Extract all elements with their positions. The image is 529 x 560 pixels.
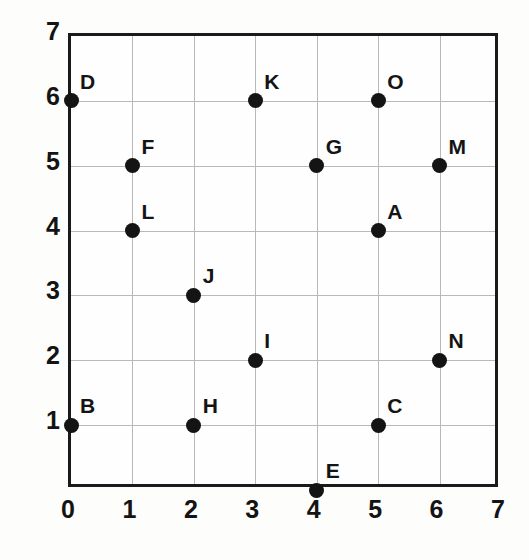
- gridline-vertical: [317, 36, 318, 484]
- x-tick-label: 2: [176, 495, 206, 524]
- data-point[interactable]: [186, 288, 201, 303]
- x-tick-label: 0: [53, 495, 83, 524]
- data-point-label: I: [264, 330, 270, 351]
- data-point[interactable]: [309, 158, 324, 173]
- x-tick-label: 1: [114, 495, 144, 524]
- data-point-label: C: [387, 395, 402, 416]
- plot-area: ABCDEFGHIJKLMNO: [68, 33, 498, 487]
- data-point[interactable]: [248, 93, 263, 108]
- x-tick-label: 7: [483, 495, 513, 524]
- data-point-label: O: [387, 71, 403, 92]
- data-point-label: D: [80, 71, 95, 92]
- y-tick-label: 5: [26, 147, 60, 176]
- y-tick-label: 3: [26, 276, 60, 305]
- x-tick-label: 6: [422, 495, 452, 524]
- y-tick-label: 1: [26, 406, 60, 435]
- gridline-horizontal: [71, 101, 495, 102]
- data-point[interactable]: [125, 223, 140, 238]
- data-point-label: G: [326, 136, 342, 157]
- gridline-vertical: [440, 36, 441, 484]
- data-point-label: A: [387, 201, 402, 222]
- y-tick-label: 7: [26, 17, 60, 46]
- data-point-label: N: [449, 330, 464, 351]
- data-point[interactable]: [64, 93, 79, 108]
- gridline-horizontal: [71, 295, 495, 296]
- data-point-label: K: [264, 71, 279, 92]
- scatter-plot-figure: ABCDEFGHIJKLMNO 01234567 1234567: [0, 0, 529, 560]
- data-point-label: H: [203, 395, 218, 416]
- data-point[interactable]: [432, 353, 447, 368]
- data-point-label: J: [203, 265, 215, 286]
- data-point[interactable]: [432, 158, 447, 173]
- x-tick-label: 4: [299, 495, 329, 524]
- data-point[interactable]: [186, 418, 201, 433]
- data-point-label: M: [449, 136, 467, 157]
- x-tick-label: 5: [360, 495, 390, 524]
- data-point-label: L: [141, 201, 154, 222]
- data-point[interactable]: [371, 418, 386, 433]
- y-tick-label: 2: [26, 341, 60, 370]
- data-point-label: F: [141, 136, 154, 157]
- data-point[interactable]: [371, 223, 386, 238]
- data-point[interactable]: [371, 93, 386, 108]
- y-tick-label: 6: [26, 82, 60, 111]
- gridline-vertical: [194, 36, 195, 484]
- data-point[interactable]: [248, 353, 263, 368]
- data-point-label: E: [326, 460, 340, 481]
- data-point[interactable]: [125, 158, 140, 173]
- gridline-horizontal: [71, 425, 495, 426]
- data-point-label: B: [80, 395, 95, 416]
- x-tick-label: 3: [237, 495, 267, 524]
- gridline-vertical: [132, 36, 133, 484]
- data-point[interactable]: [64, 418, 79, 433]
- y-tick-label: 4: [26, 212, 60, 241]
